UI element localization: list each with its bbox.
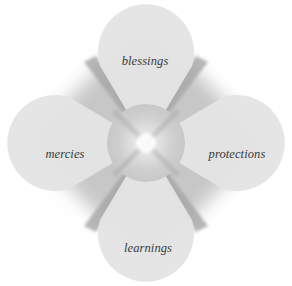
petal-label-learnings: learnings xyxy=(124,241,172,256)
petal-label-mercies: mercies xyxy=(45,147,84,162)
petal-label-blessings: blessings xyxy=(122,54,169,69)
four-petal-diagram: blessings protections learnings mercies xyxy=(0,0,292,286)
petal-label-protections: protections xyxy=(209,147,266,162)
